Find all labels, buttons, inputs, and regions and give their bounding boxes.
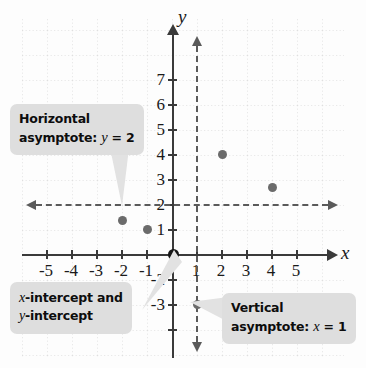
data-point (143, 225, 152, 234)
horizontal-asymptote-arrow-left (26, 200, 36, 210)
callout-text: asymptote: (231, 319, 313, 334)
callout-line: Horizontal (19, 111, 135, 128)
y-tick (168, 129, 177, 131)
y-tick-label: 7 (143, 70, 165, 90)
y-tick-label: 5 (143, 120, 165, 140)
callout-text: -intercept (25, 308, 93, 323)
x-tick-label: 3 (236, 261, 256, 281)
x-tick (271, 250, 273, 259)
x-tick-label: 2 (211, 261, 231, 281)
intercept-pointer (140, 250, 188, 312)
y-axis-label: y (178, 6, 186, 28)
y-tick-label: 6 (143, 95, 165, 115)
y-tick (168, 104, 177, 106)
x-tick-label: 4 (261, 261, 281, 281)
value: 2 (126, 130, 135, 145)
equals-sign: = (319, 319, 338, 334)
callout-line: x-intercept and (19, 289, 123, 307)
callout-line: y-intercept (19, 307, 123, 325)
x-axis-label: x (341, 242, 349, 264)
vertical-asymptote-arrow-up (192, 36, 202, 46)
x-tick (71, 250, 73, 259)
x-tick (46, 250, 48, 259)
y-tick (168, 79, 177, 81)
callout-text: asymptote: (19, 130, 101, 145)
callout-text: -intercept and (25, 290, 123, 305)
x-tick-label: -5 (34, 261, 58, 281)
x-tick (221, 250, 223, 259)
x-tick-label: 5 (286, 261, 306, 281)
callout-line: asymptote: x = 1 (231, 317, 347, 336)
x-tick-label: -2 (109, 261, 133, 281)
callout-vertical-asymptote: Vertical asymptote: x = 1 (222, 293, 356, 344)
value: 1 (338, 319, 347, 334)
vertical-asymptote-arrow-down (192, 342, 202, 352)
data-point (118, 216, 127, 225)
callout-intercepts: x-intercept and y-intercept (10, 282, 132, 334)
callout-line: asymptote: y = 2 (19, 128, 135, 147)
callout-line: Vertical (231, 300, 347, 317)
horizontal-asymptote-line (36, 204, 328, 206)
x-tick (246, 250, 248, 259)
y-tick (168, 229, 177, 231)
x-axis-arrow (327, 249, 338, 261)
x-tick (96, 250, 98, 259)
x-tick (296, 250, 298, 259)
data-point (218, 150, 227, 159)
x-tick-label: -3 (84, 261, 108, 281)
figure-canvas: x y -5 -4 -3 -2 -1 1 2 3 4 5 7 6 5 4 3 2… (0, 0, 366, 368)
y-tick (168, 154, 177, 156)
callout-horizontal-asymptote: Horizontal asymptote: y = 2 (10, 104, 144, 155)
x-tick-label: -4 (59, 261, 83, 281)
horizontal-asymptote-arrow-right (328, 200, 338, 210)
equals-sign: = (107, 130, 126, 145)
y-tick (168, 329, 177, 331)
data-point (268, 183, 277, 192)
y-tick (168, 179, 177, 181)
x-tick (121, 250, 123, 259)
